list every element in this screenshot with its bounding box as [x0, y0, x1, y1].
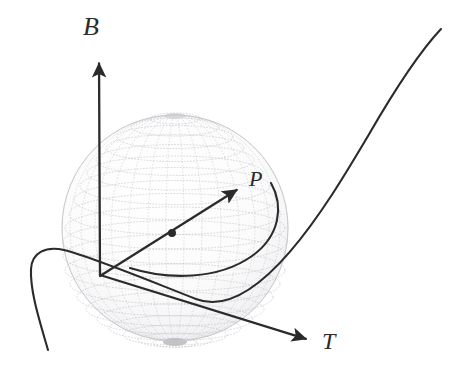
diagram-svg [0, 0, 468, 377]
sphere-north-pole-marker [164, 113, 186, 119]
binormal-vector-B [99, 63, 100, 275]
label-tangent-T: T [322, 329, 335, 353]
sphere-south-pole-marker [163, 338, 187, 346]
label-principal-P: P [249, 168, 262, 190]
curve-point-marker [168, 229, 176, 237]
osculating-sphere [62, 113, 288, 348]
label-binormal-B: B [83, 14, 99, 40]
figure-canvas: B P T [0, 0, 468, 377]
